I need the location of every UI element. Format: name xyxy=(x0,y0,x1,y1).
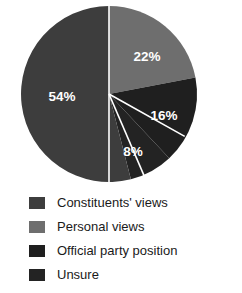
legend-item-label: Unsure xyxy=(57,266,99,290)
pie-label-unsure: 8% xyxy=(123,144,143,159)
legend-item-label: Official party position xyxy=(57,242,177,266)
legend-item-label: Personal views xyxy=(57,218,144,242)
pie-label-personal-views: 22% xyxy=(133,49,160,64)
pie-label-official-party-position: 16% xyxy=(150,108,177,123)
chart-legend: Constituents' views Personal views Offic… xyxy=(29,194,234,290)
legend-item-label: Constituents' views xyxy=(57,194,168,218)
pie-label-constituents-views: 54% xyxy=(48,89,75,104)
legend-item-unsure[interactable]: Unsure xyxy=(29,266,234,290)
legend-swatch-icon xyxy=(29,245,45,257)
pie-chart-figure: 22% 16% 8% 54% Constituents' views Perso… xyxy=(0,0,242,293)
legend-swatch-icon xyxy=(29,221,45,233)
legend-swatch-icon xyxy=(29,269,45,281)
pie-chart-graphic: 22% 16% 8% 54% xyxy=(0,0,242,190)
legend-item-personal-views[interactable]: Personal views xyxy=(29,218,234,242)
legend-item-official-party-position[interactable]: Official party position xyxy=(29,242,234,266)
legend-item-constituents-views[interactable]: Constituents' views xyxy=(29,194,234,218)
legend-swatch-icon xyxy=(29,197,45,209)
